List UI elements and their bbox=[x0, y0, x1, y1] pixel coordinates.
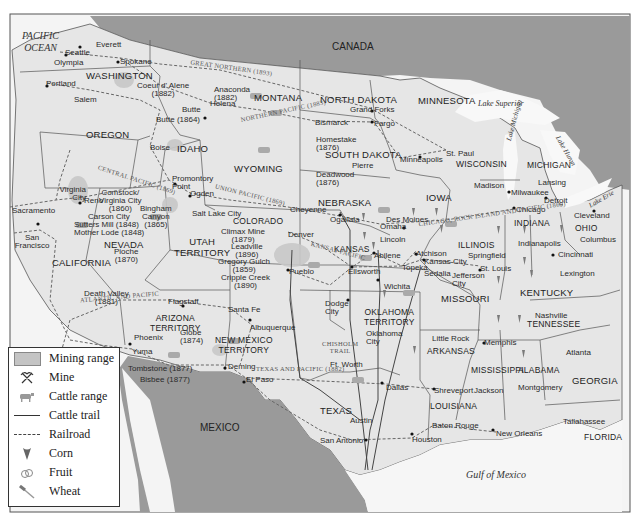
city-indianapolis: Indianapolis bbox=[518, 240, 561, 248]
city-madison: Madison bbox=[474, 182, 504, 190]
city-kansas-city: Kansas City bbox=[424, 258, 467, 266]
city-omaha: Omaha bbox=[380, 223, 406, 231]
city-san-antonio: San Antonio bbox=[320, 437, 363, 445]
legend-item-fruit: Fruit bbox=[9, 464, 119, 481]
city-virginia-city: Virginia City bbox=[56, 186, 86, 202]
city-topeka: Topeka bbox=[402, 264, 428, 272]
city-atlanta: Atlanta bbox=[566, 349, 591, 357]
city-cheyenne: Cheyenne bbox=[290, 206, 326, 214]
legend-item-corn: Corn bbox=[9, 445, 119, 462]
country-mexico: MEXICO bbox=[200, 423, 239, 433]
legend-label: Corn bbox=[49, 446, 73, 461]
gulf-of-mexico-label: Gulf of Mexico bbox=[466, 470, 526, 480]
city-pierre: Pierre bbox=[352, 162, 373, 170]
mine-tombstone: Tombstone (1877) bbox=[128, 365, 192, 373]
city-albuquerque: Albuquerque bbox=[250, 324, 295, 332]
city-bismarck: Bismarck bbox=[315, 119, 348, 127]
legend-label: Mine bbox=[49, 370, 74, 385]
city-yuma: Yuma bbox=[132, 348, 152, 356]
city-austin: Austin bbox=[350, 417, 372, 425]
pacific-ocean-label: PACIFIC OCEAN bbox=[22, 30, 59, 53]
mine-sutters-mill: Sutters Mill (1848) Mother Lode (1848) bbox=[74, 221, 144, 237]
city-promontory-point: Promontory Point bbox=[172, 175, 214, 191]
city-ogden: Ogden bbox=[190, 190, 214, 198]
city-phoenix: Phoenix bbox=[134, 334, 163, 342]
city-abilene: Abilene bbox=[374, 252, 401, 260]
city-everett: Everett bbox=[96, 41, 121, 49]
state-illinois: ILLINOIS bbox=[458, 241, 495, 250]
dashed-line-icon bbox=[9, 427, 45, 442]
city-san-francisco: San Francisco bbox=[14, 234, 50, 250]
legend-item-mining-range: Mining range bbox=[9, 350, 119, 367]
state-colorado: COLORADO bbox=[233, 217, 283, 226]
map-legend: Mining range Mine Cattle range Cattle tr… bbox=[8, 347, 120, 507]
railroad-texas-pacific: TEXAS AND PACIFIC (1882) bbox=[256, 366, 344, 373]
mine-homestake: Homestake (1876) bbox=[316, 136, 356, 152]
legend-label: Railroad bbox=[49, 427, 90, 442]
state-louisiana: LOUISIANA bbox=[430, 402, 477, 411]
state-michigan: MICHIGAN bbox=[527, 161, 571, 170]
state-oklahoma: OKLAHOMA TERRITORY bbox=[364, 307, 415, 327]
fruit-icon bbox=[9, 465, 45, 480]
city-salt-lake-city: Salt Lake City bbox=[192, 210, 241, 218]
mine-bisbee: Bisbee (1877) bbox=[140, 376, 190, 384]
city-cincinnati: Cincinnati bbox=[558, 251, 593, 259]
state-wyoming: WYOMING bbox=[234, 164, 283, 174]
cattle-icon bbox=[9, 389, 45, 404]
city-cleveland: Cleveland bbox=[574, 212, 610, 220]
state-iowa: IOWA bbox=[426, 193, 452, 203]
mining-range-swatch-icon bbox=[9, 351, 45, 366]
state-ohio: OHIO bbox=[575, 224, 598, 233]
mine-coeur-dalene: Coeur d' Alene (1882) bbox=[137, 82, 189, 98]
city-ellsworth: Ellsworth bbox=[348, 268, 380, 276]
legend-item-cattle-trail: Cattle trail bbox=[9, 407, 119, 424]
city-baton-rouge: Baton Rouge bbox=[432, 422, 479, 430]
mine-butte-1864: Butte (1864) bbox=[156, 116, 200, 124]
state-california: CALIFORNIA bbox=[52, 258, 111, 268]
legend-label: Cattle range bbox=[49, 389, 107, 404]
corn-icon bbox=[9, 446, 45, 461]
mine-anaconda: Anaconda (1882) bbox=[214, 86, 250, 102]
city-sacramento: Sacramento bbox=[12, 207, 55, 215]
city-deming: Deming bbox=[228, 363, 256, 371]
legend-item-mine: Mine bbox=[9, 369, 119, 386]
state-new-mexico: NEW MEXICO TERRITORY bbox=[215, 335, 273, 355]
city-pueblo: Pueblo bbox=[289, 268, 314, 276]
city-wichita: Wichita bbox=[384, 283, 410, 291]
mine-cripple-creek: Cripple Creek (1890) bbox=[221, 274, 270, 290]
city-boise: Boise bbox=[150, 144, 170, 152]
state-indiana: INDIANA bbox=[514, 219, 550, 228]
city-ogallala: Ogallala bbox=[330, 216, 359, 224]
state-florida: FLORIDA bbox=[584, 433, 622, 442]
legend-label: Mining range bbox=[49, 351, 114, 366]
city-tallahassee: Tallahassee bbox=[563, 418, 605, 426]
state-idaho: IDAHO bbox=[177, 144, 208, 154]
mine-comstock: Comstock/ Virginia City (1860) bbox=[99, 189, 142, 213]
country-canada: CANADA bbox=[332, 42, 374, 52]
legend-label: Fruit bbox=[49, 465, 72, 480]
state-georgia: GEORGIA bbox=[572, 376, 618, 386]
city-grand-forks: Grand Forks bbox=[350, 106, 394, 114]
city-el-paso: El Paso bbox=[246, 376, 274, 384]
city-lincoln: Lincoln bbox=[380, 236, 405, 244]
state-washington: WASHINGTON bbox=[86, 71, 153, 81]
city-dallas: Dallas bbox=[386, 384, 408, 392]
legend-item-cattle-range: Cattle range bbox=[9, 388, 119, 405]
mine-deadwood: Deadwood (1876) bbox=[316, 171, 354, 187]
state-wisconsin: WISCONSIN bbox=[456, 160, 507, 169]
city-santa-fe: Santa Fe bbox=[228, 306, 260, 314]
city-lansing: Lansing bbox=[538, 179, 566, 187]
city-salem: Salem bbox=[74, 96, 97, 104]
city-jackson: Jackson bbox=[474, 387, 503, 395]
city-montgomery: Montgomery bbox=[518, 384, 562, 392]
city-springfield: Springfield bbox=[468, 252, 506, 260]
city-portland: Portland bbox=[46, 80, 76, 88]
state-oregon: OREGON bbox=[86, 130, 129, 140]
city-sedalia: Sedalia bbox=[424, 270, 451, 278]
legend-item-wheat: Wheat bbox=[9, 483, 119, 500]
city-olympia: Olympia bbox=[54, 59, 83, 67]
state-minnesota: MINNESOTA bbox=[418, 96, 476, 106]
mine-bingham-canyon: Bingham Canyon (1865) bbox=[140, 205, 172, 229]
mine-gregory-gulch: Gregory Gulch (1859) bbox=[218, 258, 270, 274]
city-columbus: Columbus bbox=[580, 236, 616, 244]
